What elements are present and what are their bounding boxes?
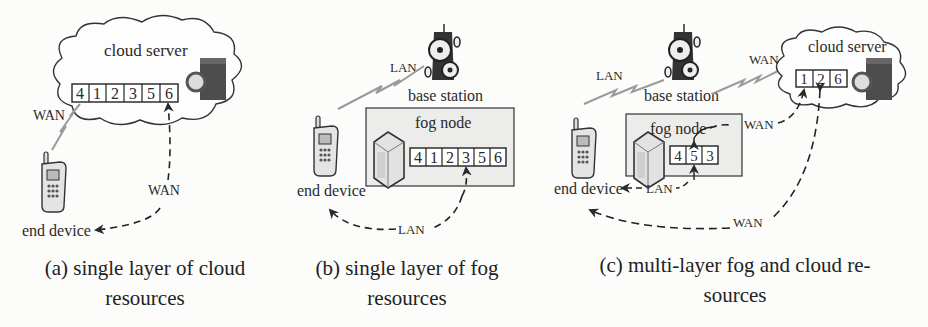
cloud-task-queue: 1 2 6	[796, 70, 847, 87]
caption-b-line2: resources	[297, 283, 517, 313]
queue-cell: 3	[706, 148, 714, 164]
lan-return-label: LAN	[646, 181, 673, 196]
queue-cell: 4	[674, 148, 682, 164]
task-queue: 4 1 2 3 5 6	[72, 84, 178, 102]
cloud-server-label: cloud server	[104, 41, 188, 60]
phone-icon	[314, 116, 338, 176]
base-station-icon	[425, 24, 460, 80]
queue-cell: 2	[817, 71, 825, 87]
queue-cell: 5	[147, 85, 155, 102]
queue-cell: 4	[414, 149, 422, 166]
queue-cell: 2	[111, 85, 119, 102]
queue-cell: 2	[446, 149, 454, 166]
queue-cell: 5	[478, 149, 486, 166]
caption-a-line2: resources	[30, 283, 260, 313]
queue-cell: 1	[430, 149, 438, 166]
queue-cell: 3	[129, 85, 137, 102]
base-station-label: base station	[408, 87, 483, 104]
caption-a-line1: (a) single layer of cloud	[45, 256, 246, 280]
fog-server-icon	[634, 132, 664, 188]
cloud-return-arrow	[770, 90, 820, 220]
phone-icon	[572, 118, 596, 178]
wan-return-label: WAN	[148, 183, 180, 198]
caption-b: (b) single layer of fog resources	[297, 253, 517, 313]
wan-wireless-label: WAN	[749, 52, 779, 67]
base-station-label: base station	[644, 87, 719, 104]
lan-return-label: LAN	[398, 222, 425, 237]
queue-cell: 1	[93, 85, 101, 102]
return-path-arrow	[330, 210, 396, 229]
end-device-label: end device	[22, 222, 91, 239]
caption-b-line1: (b) single layer of fog	[315, 256, 498, 280]
return-path-arrow	[96, 208, 160, 230]
fog-server-icon	[374, 132, 404, 188]
queue-cell: 6	[834, 71, 842, 87]
queue-cell: 1	[800, 71, 808, 87]
cloud-server-label: cloud server	[808, 38, 887, 55]
queue-cell: 3	[462, 149, 470, 166]
wan-fog-cloud-label: WAN	[744, 117, 774, 132]
caption-c: (c) multi-layer fog and cloud re- source…	[570, 250, 900, 310]
panel-a: cloud server 4 1 2 3 5 6 WAN WAN end dev…	[22, 15, 242, 239]
wireless-link-icon	[712, 70, 780, 94]
end-device-label: end device	[554, 180, 623, 197]
base-station-icon	[665, 24, 700, 80]
caption-c-line2: sources	[570, 280, 900, 310]
queue-cell: 6	[494, 149, 502, 166]
queue-cell: 5	[690, 148, 698, 164]
phone-icon	[42, 152, 66, 212]
cloud-return-arrow	[590, 210, 730, 229]
queue-cell: 4	[76, 85, 84, 102]
wan-wireless-label: WAN	[33, 108, 65, 123]
panel-b: base station LAN fog node 4 1 2 3 5 6 en…	[297, 24, 514, 237]
lan-wireless-label: LAN	[596, 68, 623, 83]
queue-cell: 6	[165, 85, 173, 102]
wan-return-label: WAN	[733, 215, 763, 230]
end-device-label: end device	[297, 182, 366, 199]
caption-a: (a) single layer of cloud resources	[30, 253, 260, 313]
panel-c: base station LAN WAN cloud server 1 2 6 …	[554, 24, 906, 230]
return-path-arrow	[430, 196, 462, 229]
fog-return-arrow	[676, 182, 688, 188]
fog-task-queue: 4 5 3	[670, 146, 718, 164]
caption-c-line1: (c) multi-layer fog and cloud re-	[599, 253, 870, 277]
task-queue: 4 1 2 3 5 6	[410, 148, 506, 166]
fog-node-label: fog node	[650, 120, 706, 138]
fog-node-label: fog node	[415, 114, 471, 132]
